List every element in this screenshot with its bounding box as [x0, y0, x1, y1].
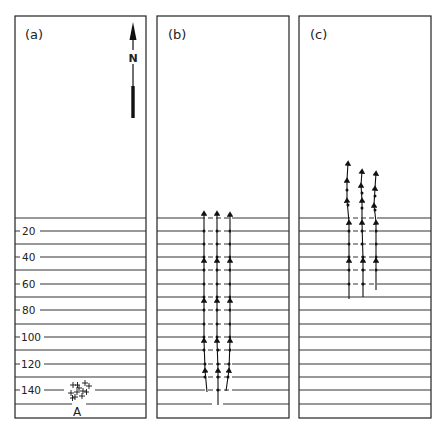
panel-b-trajectories	[203, 213, 232, 405]
depth-label-20: 20	[22, 225, 35, 237]
depth-label-100: 100	[21, 331, 41, 343]
depth-label-80: 80	[22, 304, 35, 316]
panel-a-label: (a)	[25, 27, 43, 42]
figure: (a) (b) (c) N 20 40	[0, 0, 447, 433]
cluster-label: A	[73, 405, 82, 419]
depth-label-140: 140	[21, 384, 41, 396]
depth-label-120: 120	[21, 358, 41, 370]
north-arrow-icon: N	[129, 22, 138, 118]
depth-label-60: 60	[22, 278, 35, 290]
panel-c-frame	[299, 16, 431, 418]
depth-label-40: 40	[22, 251, 35, 263]
panel-b-grid	[157, 218, 289, 404]
north-label: N	[129, 52, 138, 65]
panel-b-frame	[157, 16, 289, 418]
panel-c-grid	[299, 218, 431, 404]
cluster-a	[68, 380, 92, 401]
panel-c-label: (c)	[310, 27, 327, 42]
panel-b-label: (b)	[168, 27, 186, 42]
depth-labels: 20 40 60 80 100 120 140	[21, 225, 41, 396]
